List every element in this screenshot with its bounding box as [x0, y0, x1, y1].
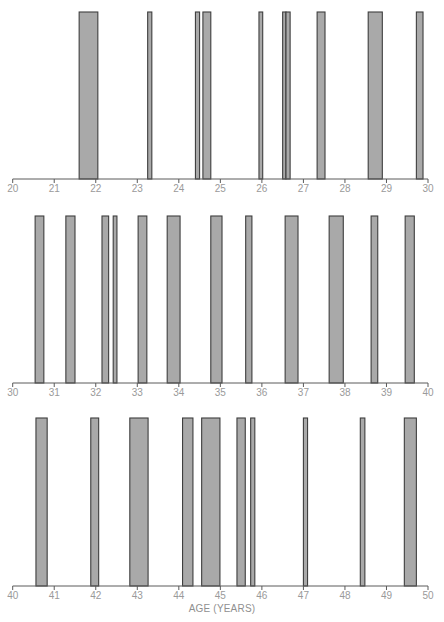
bar [79, 12, 98, 179]
tick-label: 43 [132, 590, 144, 601]
tick-label: 36 [256, 387, 268, 398]
bar [167, 216, 180, 383]
tick-label: 40 [7, 590, 19, 601]
tick-label: 45 [215, 590, 227, 601]
bar [246, 216, 252, 383]
tick-label: 32 [90, 387, 102, 398]
tick-label: 42 [90, 590, 102, 601]
tick-label: 50 [422, 590, 434, 601]
bar [286, 12, 290, 179]
bar [36, 418, 47, 586]
tick-label: 40 [422, 387, 434, 398]
tick-label: 22 [90, 183, 102, 194]
tick-label: 46 [256, 590, 268, 601]
bar [130, 418, 148, 586]
age-bar-chart: 2021222324252627282930 30313233343536373… [0, 0, 444, 622]
chart-panel-20-30: 2021222324252627282930 [7, 12, 434, 194]
bar [148, 12, 152, 179]
tick-label: 27 [298, 183, 310, 194]
x-axis-title: AGE (YEARS) [189, 603, 256, 614]
tick-label: 24 [173, 183, 185, 194]
tick-label: 29 [381, 183, 393, 194]
bar [368, 12, 382, 179]
bar [195, 12, 199, 179]
tick-label: 48 [339, 590, 351, 601]
bar [237, 418, 245, 586]
tick-label: 35 [215, 387, 227, 398]
bar [113, 216, 117, 383]
bar [303, 418, 307, 586]
bar [371, 216, 378, 383]
bar [91, 418, 99, 586]
tick-label: 38 [339, 387, 351, 398]
tick-label: 39 [381, 387, 393, 398]
tick-label: 26 [256, 183, 268, 194]
bar [285, 216, 298, 383]
bar [211, 216, 222, 383]
tick-label: 23 [132, 183, 144, 194]
bar [138, 216, 147, 383]
tick-label: 30 [422, 183, 434, 194]
tick-label: 33 [132, 387, 144, 398]
tick-label: 20 [7, 183, 19, 194]
tick-label: 47 [298, 590, 310, 601]
tick-label: 44 [173, 590, 185, 601]
bar [202, 418, 220, 586]
bar [35, 216, 44, 383]
tick-label: 21 [49, 183, 61, 194]
bar [183, 418, 193, 586]
tick-label: 49 [381, 590, 393, 601]
bar [203, 12, 211, 179]
bar [416, 12, 423, 179]
bar [360, 418, 365, 586]
tick-label: 25 [215, 183, 227, 194]
chart-panel-30-40: 3031323334353637383940 [7, 216, 434, 398]
tick-label: 28 [339, 183, 351, 194]
bar [329, 216, 343, 383]
bar [102, 216, 109, 383]
bar [259, 12, 263, 179]
tick-label: 41 [49, 590, 61, 601]
bar [405, 216, 414, 383]
bar [317, 12, 325, 179]
tick-label: 34 [173, 387, 185, 398]
chart-panel-40-50: 4041424344454647484950 [7, 418, 434, 601]
tick-label: 31 [49, 387, 61, 398]
tick-label: 30 [7, 387, 19, 398]
bar [66, 216, 75, 383]
bar [404, 418, 416, 586]
tick-label: 37 [298, 387, 310, 398]
bar [251, 418, 255, 586]
